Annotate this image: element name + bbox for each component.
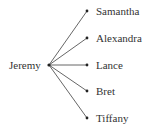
node-dot-lance [86, 64, 89, 67]
child-label-tiffany: Tiffany [96, 112, 128, 124]
node-dot-alexandra [86, 37, 89, 40]
child-label-lance: Lance [96, 59, 123, 71]
root-node-dot [47, 63, 50, 66]
edge-samantha [49, 11, 87, 65]
node-dot-bret [86, 90, 89, 93]
child-label-bret: Bret [96, 85, 115, 97]
edge-alexandra [49, 38, 87, 65]
node-dot-samantha [86, 10, 89, 13]
edge-tiffany [49, 65, 87, 118]
child-label-samantha: Samantha [96, 5, 139, 17]
edge-bret [49, 65, 87, 91]
node-dot-tiffany [86, 117, 89, 120]
child-label-alexandra: Alexandra [96, 32, 142, 44]
root-label: Jeremy [9, 59, 41, 71]
